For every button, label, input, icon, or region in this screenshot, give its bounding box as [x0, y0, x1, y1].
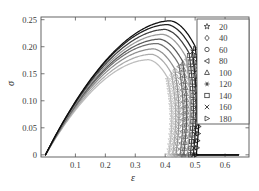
legend-label: 40 [219, 33, 228, 43]
legend-label: 160 [219, 102, 232, 112]
chart-canvas: 0.10.20.30.40.50.600.050.100.150.200.252… [0, 0, 259, 191]
y-tick-label: 0.25 [22, 15, 37, 25]
y-tick-label: 0 [33, 150, 37, 160]
y-tick-label: 0.10 [22, 96, 37, 106]
legend-label: 180 [219, 114, 232, 124]
x-tick-label: 0.5 [190, 160, 201, 170]
legend-label: 60 [219, 45, 228, 55]
figure: 0.10.20.30.40.50.600.050.100.150.200.252… [0, 0, 259, 191]
legend-label: 140 [219, 91, 232, 101]
legend-label: 80 [219, 56, 228, 66]
y-tick-label: 0.15 [22, 69, 37, 79]
legend-label: 120 [219, 79, 232, 89]
legend-label: 100 [219, 68, 232, 78]
y-tick-label: 0.05 [22, 123, 37, 133]
x-axis-label: ε [131, 172, 135, 183]
legend-label: 20 [219, 22, 228, 32]
x-tick-label: 0.2 [100, 160, 111, 170]
x-tick-label: 0.1 [70, 160, 81, 170]
x-tick-label: 0.4 [160, 160, 171, 170]
x-tick-label: 0.3 [130, 160, 141, 170]
y-tick-label: 0.20 [22, 42, 37, 52]
x-tick-label: 0.6 [220, 160, 231, 170]
y-axis-label: σ [5, 81, 16, 86]
legend: 20406080100120140160180 [197, 19, 249, 124]
